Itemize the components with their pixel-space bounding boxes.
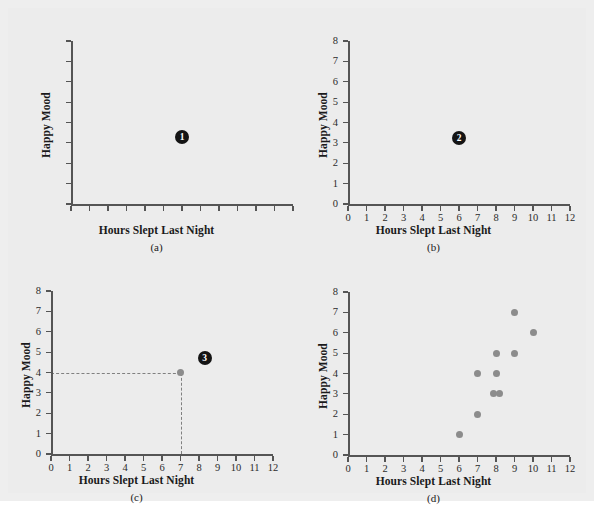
data-point bbox=[493, 350, 500, 357]
panel-d-x-tick-label: 5 bbox=[431, 463, 451, 475]
panel-d-y-tick-label: 7 bbox=[322, 306, 338, 318]
panel-c-x-tick-label: 3 bbox=[97, 462, 117, 474]
panel-d-x-tick bbox=[347, 457, 348, 462]
panel-d-y-tick-label: 1 bbox=[322, 429, 338, 441]
panel-d-x-tick-label: 4 bbox=[412, 463, 432, 475]
panel-c-marker-3: 3 bbox=[198, 351, 212, 365]
panel-c-y-tick-label: 1 bbox=[25, 428, 41, 440]
panel-c-y-tick bbox=[46, 311, 51, 312]
panel-b-x-tick bbox=[458, 206, 459, 211]
panel-b-y-tick bbox=[343, 81, 348, 82]
panel-b-y-tick-label: 6 bbox=[322, 76, 338, 88]
panel-d-y-tick-label: 2 bbox=[322, 408, 338, 420]
panel-d-y-tick bbox=[343, 373, 348, 374]
panel-c-y-tick-label: 6 bbox=[25, 326, 41, 338]
panel-b-x-tick-label: 6 bbox=[449, 212, 469, 224]
panel-c-y-tick bbox=[46, 453, 51, 454]
panel-c-x-tick bbox=[198, 456, 199, 461]
guide-line-horizontal bbox=[51, 373, 181, 374]
panel-c-x-tick-label: 5 bbox=[134, 462, 154, 474]
panel-d-x-tick-label: 12 bbox=[560, 463, 580, 475]
panel-b-x-tick-label: 0 bbox=[338, 212, 358, 224]
panel-c-x-tick-label: 1 bbox=[60, 462, 80, 474]
panel-c-x-tick bbox=[106, 456, 107, 461]
panel-b-plot-area: 0123456789101112 012345678 2 Happy Mood … bbox=[305, 8, 594, 258]
panel-b-x-tick-label: 11 bbox=[542, 212, 562, 224]
panel-c-x-tick bbox=[87, 456, 88, 461]
panel-c-x-tick bbox=[161, 456, 162, 461]
panel-c-y-tick-label: 8 bbox=[25, 285, 41, 297]
panel-c-plot-area: 0123456789101112 012345678 3 Happy Mood … bbox=[8, 258, 305, 508]
panel-b-x-tick bbox=[403, 206, 404, 211]
data-point bbox=[177, 369, 184, 376]
panel-c-x-tick bbox=[69, 456, 70, 461]
panel-c-x-tick bbox=[272, 456, 273, 461]
panel-b-x-tick bbox=[532, 206, 533, 211]
panel-d: 0123456789101112 012345678 Happy Mood Ho… bbox=[305, 259, 594, 509]
panel-a-y-axis bbox=[71, 41, 73, 205]
panel-c-y-tick bbox=[46, 392, 51, 393]
panel-c-x-tick-label: 7 bbox=[171, 462, 191, 474]
panel-a-x-tick bbox=[126, 206, 127, 211]
panel-b-x-tick bbox=[551, 206, 552, 211]
panel-c-y-tick-label: 7 bbox=[25, 305, 41, 317]
panel-a-x-axis-title: Hours Slept Last Night bbox=[8, 224, 305, 236]
panel-a-x-tick bbox=[144, 206, 145, 211]
panel-a-y-tick bbox=[66, 81, 71, 82]
panel-a-caption: (a) bbox=[8, 241, 305, 253]
panel-d-x-tick bbox=[421, 457, 422, 462]
data-point bbox=[474, 411, 481, 418]
panel-a-plot-area: 1 Happy Mood Hours Slept Last Night (a) bbox=[8, 8, 305, 258]
panel-b-x-tick bbox=[366, 206, 367, 211]
panel-d-y-tick bbox=[343, 353, 348, 354]
panel-c-x-axis-title: Hours Slept Last Night bbox=[0, 474, 285, 486]
panel-b-marker-2: 2 bbox=[452, 131, 466, 145]
panel-d-y-axis bbox=[348, 292, 350, 456]
panel-b-x-tick-label: 1 bbox=[357, 212, 377, 224]
panel-d-x-tick bbox=[366, 457, 367, 462]
panel-d-x-tick bbox=[514, 457, 515, 462]
panel-b-x-tick-label: 10 bbox=[523, 212, 543, 224]
guide-line-vertical bbox=[181, 373, 182, 455]
panel-c-caption: (c) bbox=[0, 491, 285, 503]
panel-d-y-tick bbox=[343, 454, 348, 455]
panel-b-x-tick bbox=[569, 206, 570, 211]
panel-d-x-tick bbox=[440, 457, 441, 462]
panel-b-x-tick bbox=[347, 206, 348, 211]
panel-b-y-tick bbox=[343, 203, 348, 204]
panel-d-x-tick bbox=[477, 457, 478, 462]
panel-c-x-tick-label: 2 bbox=[78, 462, 98, 474]
panel-b-y-tick-label: 2 bbox=[322, 157, 338, 169]
panel-b-x-tick bbox=[477, 206, 478, 211]
panel-a-x-tick bbox=[237, 206, 238, 211]
panel-d-x-tick-label: 11 bbox=[542, 463, 562, 475]
panel-c-y-tick-label: 2 bbox=[25, 407, 41, 419]
panel-d-x-tick bbox=[569, 457, 570, 462]
panel-d-x-axis-title: Hours Slept Last Night bbox=[285, 475, 582, 487]
panel-c-x-tick bbox=[180, 456, 181, 461]
panel-c-y-tick-label: 0 bbox=[25, 448, 41, 460]
panel-d-x-tick-label: 9 bbox=[505, 463, 525, 475]
panel-c-x-tick bbox=[50, 456, 51, 461]
data-point bbox=[511, 309, 518, 316]
panel-b-x-tick bbox=[421, 206, 422, 211]
panel-c-y-tick bbox=[46, 372, 51, 373]
panel-d-x-tick-label: 3 bbox=[394, 463, 414, 475]
panel-b-y-tick bbox=[343, 122, 348, 123]
panel-d-y-tick bbox=[343, 332, 348, 333]
panel-c-x-tick-label: 0 bbox=[41, 462, 61, 474]
panel-b-x-tick-label: 2 bbox=[375, 212, 395, 224]
panel-a-y-tick bbox=[66, 142, 71, 143]
panel-a-x-tick bbox=[218, 206, 219, 211]
panel-c-y-tick bbox=[46, 290, 51, 291]
panel-a-y-axis-title: Happy Mood bbox=[40, 92, 52, 158]
panel-d-y-tick bbox=[343, 312, 348, 313]
panel-c-y-axis bbox=[51, 291, 53, 455]
panel-c-x-tick-label: 12 bbox=[263, 462, 283, 474]
panel-d-y-tick-label: 8 bbox=[322, 286, 338, 298]
panel-a-y-tick bbox=[66, 163, 71, 164]
panel-d-x-tick bbox=[384, 457, 385, 462]
panel-d-y-axis-title: Happy Mood bbox=[317, 343, 329, 409]
panel-c-y-tick bbox=[46, 352, 51, 353]
